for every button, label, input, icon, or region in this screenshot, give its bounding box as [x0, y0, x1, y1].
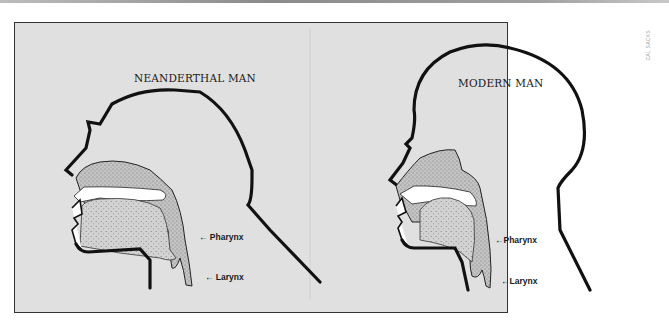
modern-larynx-label: ←Larynx [501, 276, 537, 286]
neanderthal-head [66, 90, 320, 288]
diagram-artwork [0, 0, 669, 333]
modern-tongue [420, 198, 475, 262]
neanderthal-title: NEANDERTHAL MAN [134, 72, 256, 84]
neanderthal-pharynx-label: ← Pharynx [199, 232, 243, 242]
illustrator-credit: CAL SACKS [645, 30, 651, 61]
modern-title: MODERN MAN [458, 77, 543, 89]
neanderthal-larynx-label: ← Larynx [205, 272, 244, 282]
modern-pharynx-label: ←Pharynx [495, 235, 537, 245]
